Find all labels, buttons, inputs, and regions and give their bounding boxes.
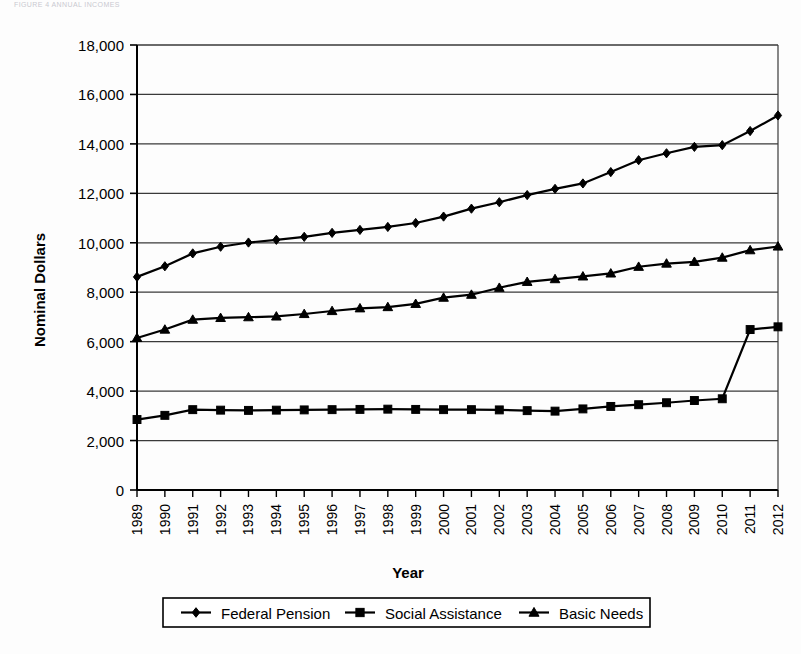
x-tick-label: 2004 <box>547 504 563 535</box>
x-tick-label: 1999 <box>408 504 424 535</box>
series-line <box>137 115 778 276</box>
x-tick-label: 2003 <box>519 504 535 535</box>
data-point-square <box>300 406 308 414</box>
series-social-assistance <box>133 323 782 424</box>
data-point-square <box>161 411 169 419</box>
data-point-diamond <box>747 126 754 135</box>
data-point-square <box>356 608 364 616</box>
data-point-diamond <box>384 222 391 231</box>
x-axis-ticks <box>137 490 778 497</box>
legend-label: Federal Pension <box>221 605 330 622</box>
x-tick-label: 2009 <box>686 504 702 535</box>
data-point-square <box>746 326 754 334</box>
data-point-square <box>217 406 225 414</box>
data-point-diamond <box>133 272 140 281</box>
line-chart: Nominal Dollars 02,0004,0006,0008,00010,… <box>0 0 801 654</box>
x-tick-label: 1994 <box>268 504 284 535</box>
data-point-square <box>356 405 364 413</box>
data-point-diamond <box>328 228 335 237</box>
data-point-square <box>523 407 531 415</box>
data-point-diamond <box>440 212 447 221</box>
figure-header-note: FIGURE 4 ANNUAL INCOMES <box>14 1 120 8</box>
data-point-square <box>690 397 698 405</box>
legend-label: Social Assistance <box>385 605 502 622</box>
data-point-square <box>189 406 197 414</box>
x-tick-label: 1996 <box>324 504 340 535</box>
x-axis-tick-labels: 1989199019911992199319941995199619971998… <box>129 504 786 535</box>
y-tick-label: 4,000 <box>86 383 124 400</box>
data-point-diamond <box>245 238 252 247</box>
x-tick-label: 2008 <box>659 504 675 535</box>
x-tick-label: 1989 <box>129 504 145 535</box>
figure-container: FIGURE 4 ANNUAL INCOMES Nominal Dollars … <box>0 0 801 654</box>
data-point-square <box>384 405 392 413</box>
data-point-diamond <box>217 242 224 251</box>
x-tick-label: 2007 <box>631 504 647 535</box>
legend-label: Basic Needs <box>559 605 643 622</box>
data-series-layer <box>132 111 783 424</box>
x-tick-label: 1997 <box>352 504 368 535</box>
y-axis-ticks: 02,0004,0006,0008,00010,00012,00014,0001… <box>78 37 137 499</box>
y-tick-label: 8,000 <box>86 284 124 301</box>
data-point-diamond <box>468 204 475 213</box>
series-line <box>137 327 778 420</box>
data-point-diamond <box>551 184 558 193</box>
x-tick-label: 1992 <box>213 504 229 535</box>
data-point-diamond <box>607 167 614 176</box>
data-point-diamond <box>161 262 168 271</box>
y-axis-title: Nominal Dollars <box>31 233 48 347</box>
y-tick-label: 6,000 <box>86 334 124 351</box>
data-point-diamond <box>774 111 781 120</box>
data-point-square <box>774 323 782 331</box>
x-tick-label: 2001 <box>463 504 479 535</box>
data-point-diamond <box>524 190 531 199</box>
x-axis-title: Year <box>392 564 424 581</box>
y-tick-label: 16,000 <box>78 86 124 103</box>
data-point-diamond <box>635 156 642 165</box>
data-point-square <box>245 406 253 414</box>
chart-legend: Federal PensionSocial AssistanceBasic Ne… <box>163 598 650 627</box>
y-tick-label: 14,000 <box>78 136 124 153</box>
data-point-square <box>551 407 559 415</box>
x-tick-label: 2002 <box>491 504 507 535</box>
data-point-diamond <box>719 141 726 150</box>
x-tick-label: 1990 <box>157 504 173 535</box>
data-point-square <box>440 406 448 414</box>
series-basic-needs <box>132 242 783 342</box>
data-point-square <box>718 395 726 403</box>
data-point-diamond <box>579 179 586 188</box>
data-point-square <box>663 399 671 407</box>
x-tick-label: 2012 <box>770 504 786 535</box>
data-point-diamond <box>189 249 196 258</box>
x-tick-label: 2011 <box>742 504 758 534</box>
data-point-square <box>272 406 280 414</box>
x-tick-label: 2000 <box>436 504 452 535</box>
y-tick-label: 18,000 <box>78 37 124 54</box>
data-point-square <box>635 401 643 409</box>
data-point-square <box>412 405 420 413</box>
data-point-square <box>495 406 503 414</box>
x-tick-label: 1993 <box>240 504 256 535</box>
x-tick-label: 2010 <box>714 504 730 535</box>
x-tick-label: 2006 <box>603 504 619 535</box>
data-point-square <box>328 406 336 414</box>
series-federal-pension <box>133 111 781 282</box>
data-point-diamond <box>412 218 419 227</box>
data-point-square <box>467 406 475 414</box>
data-point-square <box>579 405 587 413</box>
x-tick-label: 1995 <box>296 504 312 535</box>
axes <box>137 45 778 490</box>
data-point-diamond <box>496 198 503 207</box>
x-tick-label: 1991 <box>185 504 201 535</box>
x-tick-label: 1998 <box>380 504 396 535</box>
data-point-diamond <box>356 225 363 234</box>
y-tick-label: 12,000 <box>78 185 124 202</box>
y-tick-label: 2,000 <box>86 433 124 450</box>
data-point-square <box>607 402 615 410</box>
y-tick-label: 0 <box>116 482 124 499</box>
data-point-diamond <box>663 149 670 158</box>
data-point-diamond <box>301 232 308 241</box>
gridlines <box>137 45 778 441</box>
data-point-square <box>133 416 141 424</box>
x-tick-label: 2005 <box>575 504 591 535</box>
